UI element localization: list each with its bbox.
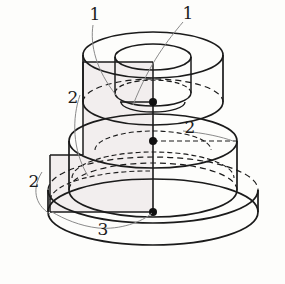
- label-lower-left: 2: [29, 171, 40, 191]
- label-top-right: 1: [183, 3, 194, 23]
- figure-container: 1 1 2 2 2 3: [0, 0, 285, 284]
- label-upper-left: 2: [68, 87, 79, 107]
- solid-of-revolution-diagram: 1 1 2 2 2 3: [0, 0, 285, 284]
- axis-dot-middle: [149, 137, 157, 145]
- label-top-left: 1: [90, 4, 101, 24]
- axis-dot-top: [149, 98, 157, 106]
- label-middle-right: 2: [185, 117, 196, 137]
- label-bottom: 3: [98, 219, 109, 239]
